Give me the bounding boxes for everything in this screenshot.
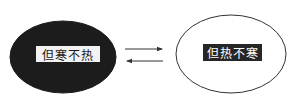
left-node-label: 但寒不热: [36, 46, 100, 62]
cold-heat-diagram: 但寒不热 但热不寒: [0, 0, 299, 104]
right-node-label: 但热不寒: [203, 44, 262, 61]
